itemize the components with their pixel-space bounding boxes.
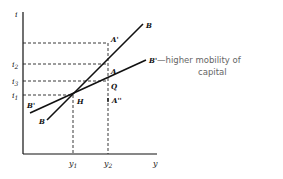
point-a-prime-label: A' [110,35,119,44]
point-h-label: H [76,97,84,106]
annotation-line-1: —higher mobility of [157,55,242,65]
b-prime-b-prime-curve [30,60,146,113]
point-q-label: Q [111,82,117,91]
point-a-double-prime-label: A'' [111,96,122,105]
y-axis-label: i [15,10,18,19]
point-a-label: A [110,67,117,76]
i2-label: i2 [12,60,19,70]
b-prime-end-label: B' [148,56,157,65]
bb-end-label: B [145,21,152,30]
economics-diagram: i y i2 i3 i1 y1 y2 B B B' B' A' A Q A'' … [0,0,283,179]
bb-start-label: B [38,117,45,126]
x-axis-label: y [152,159,158,168]
bb-curve [47,24,143,120]
annotation-line-2: capital [198,67,227,77]
y1-label: y1 [68,159,77,169]
i1-label: i1 [12,91,18,101]
b-prime-start-label: B' [26,101,35,110]
y2-label: y2 [103,159,113,169]
i3-label: i3 [12,77,19,87]
